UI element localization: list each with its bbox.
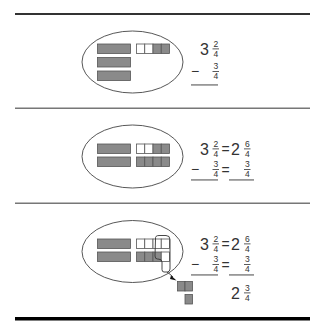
whole-bar [98,239,131,249]
whole-bar [98,252,131,262]
subtrahend-denominator: 4 [214,169,219,179]
equals-sign: = [222,236,230,252]
minus-sign: − [191,161,199,177]
fraction-pieces [137,44,170,54]
removed-quarter-piece [178,282,186,292]
result-numerator: 3 [245,283,250,293]
whole-bar [98,58,131,68]
subtrahend-right-numerator: 3 [245,254,250,264]
quarter-piece-shaded [153,144,161,154]
bottom-rule [15,317,310,321]
quarter-piece-empty [161,239,169,249]
regrouped-denominator: 4 [245,244,250,254]
quarter-piece-shaded [137,252,145,262]
model-oval [82,221,183,283]
quarter-piece-shaded [145,252,153,262]
quarter-piece-empty [137,144,145,154]
subtrahend-denominator: 4 [214,71,219,81]
equation-2: 3 2 4 = 2 6 4 − 3 4 = 3 4 [191,139,254,181]
regrouped-whole: 2 [231,141,240,158]
whole-bar [98,144,131,154]
minuend-numerator: 2 [214,139,219,149]
answer-line-left [191,180,218,181]
minuend-numerator: 2 [214,234,219,244]
quarter-piece-shaded [137,157,145,167]
mixed-number-subtraction-diagram: 3 2 4 − 3 4 3 2 [0,0,321,335]
minuend-denominator: 4 [214,149,219,159]
quarter-piece-empty [137,44,145,54]
regrouped-numerator: 6 [245,139,250,149]
answer-line [191,85,218,86]
equals-sign: = [222,162,230,178]
removed-quarter-piece [185,282,193,292]
whole-bar [98,157,131,167]
quarter-piece-shaded [153,157,161,167]
equation-3: 3 2 4 = 2 6 4 − 3 4 = 3 4 2 3 4 [191,234,254,303]
model-oval [82,125,183,188]
divider-rule-2 [15,203,310,205]
answer-line-left [191,275,218,276]
result-denominator: 4 [245,293,250,303]
quarter-piece-empty [153,239,161,249]
minus-sign: − [191,256,199,272]
regrouped-denominator: 4 [245,149,250,159]
equals-sign: = [222,257,230,273]
removed-quarter-piece [185,295,193,305]
answer-line-right [229,180,254,181]
removed-pieces [178,282,193,305]
minuend-denominator: 4 [214,244,219,254]
regrouped-numerator: 6 [245,234,250,244]
whole-bar [98,44,131,54]
quarter-piece-empty [161,252,169,262]
equation-1: 3 2 4 − 3 4 [191,39,219,86]
subtrahend-right-denominator: 4 [245,264,250,274]
quarter-piece-empty [145,144,153,154]
quarter-piece-shaded [145,157,153,167]
whole-bars [98,144,131,167]
minuend-denominator: 4 [214,49,219,59]
quarter-piece-shaded [161,157,169,167]
arrow-head-icon [170,276,177,281]
subtrahend-right-denominator: 4 [245,169,250,179]
minuend-numerator: 2 [214,39,219,49]
equals-sign: = [222,141,230,157]
panel-2: 3 2 4 = 2 6 4 − 3 4 = 3 4 [82,125,254,188]
regrouped-whole: 2 [231,236,240,253]
fraction-pieces [137,239,170,262]
subtrahend-denominator: 4 [214,264,219,274]
subtrahend-right-numerator: 3 [245,159,250,169]
minuend-whole: 3 [200,141,209,158]
result-whole: 2 [231,285,240,302]
whole-bars [98,239,131,262]
subtrahend-numerator: 3 [214,159,219,169]
panel-3: 3 2 4 = 2 6 4 − 3 4 = 3 4 2 3 4 [82,221,254,305]
subtrahend-numerator: 3 [214,254,219,264]
quarter-piece-shaded [161,44,169,54]
minuend-whole: 3 [200,236,209,253]
minus-sign: − [191,63,199,79]
quarter-piece-empty [145,44,153,54]
quarter-piece-shaded [161,144,169,154]
fraction-pieces [137,144,170,167]
whole-bar [98,71,131,81]
divider-rule-1 [15,108,310,110]
quarter-piece-empty [145,239,153,249]
whole-bars [98,44,131,81]
quarter-piece-shaded [153,252,161,262]
panel-1: 3 2 4 − 3 4 [82,31,219,93]
quarter-piece-empty [137,239,145,249]
top-rule [15,13,310,15]
quarter-piece-shaded [153,44,161,54]
minuend-whole: 3 [200,41,209,58]
subtrahend-numerator: 3 [214,61,219,71]
answer-line-right [229,275,254,276]
